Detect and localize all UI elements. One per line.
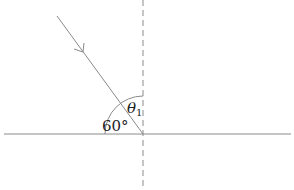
angle-60-label: 60° xyxy=(102,117,129,135)
theta-label: θ1 xyxy=(127,99,142,118)
ray-diagram: 60° θ1 xyxy=(0,0,294,190)
